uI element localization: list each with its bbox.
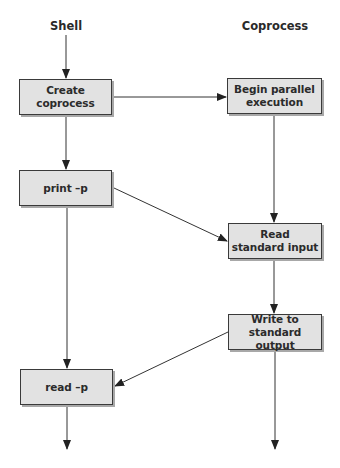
node-label: Read standard input [232,228,318,254]
arrow-print-to-readin [114,188,227,241]
node-label: read –p [45,381,88,394]
node-label: Write to standard output [229,313,321,352]
node-print-p: print –p [19,170,112,206]
node-create-coprocess: Create coprocess [19,79,112,115]
node-write-standard-output: Write to standard output [228,314,322,350]
node-label: Create coprocess [36,84,94,110]
node-read-p: read –p [20,369,113,405]
node-label: Begin parallel execution [234,83,315,109]
node-read-standard-input: Read standard input [228,223,322,259]
node-begin-parallel-execution: Begin parallel execution [227,78,322,114]
node-label: print –p [43,182,87,195]
arrow-writeout-to-read [115,332,228,386]
